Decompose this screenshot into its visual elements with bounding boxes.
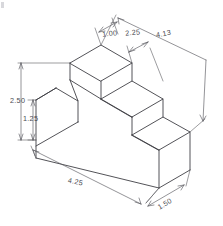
dim-4-25-label: 4.25 — [67, 176, 84, 188]
dimension-1-50: 1.50 — [146, 170, 190, 212]
dim-4-25-arrow-end — [135, 198, 141, 204]
dim-2-25-label: 2.25 — [125, 27, 141, 38]
dim-1-50-label: 1.50 — [156, 196, 174, 211]
front-top-edge-a — [70, 80, 101, 99]
bottom-right-edge — [159, 170, 190, 188]
front-top-edge-b — [101, 99, 132, 117]
dim-2-50-label: 2.50 — [10, 96, 25, 105]
drawing-svg: 1.00 2.25 4.13 2.50 — [0, 0, 223, 226]
bottom-front-edge — [36, 158, 159, 188]
dim-4-13-arrow-start — [118, 18, 124, 24]
dim-1-25-label: 1.25 — [23, 114, 38, 123]
dimension-4-25: 4.25 — [31, 146, 159, 204]
isometric-drawing-canvas: 1.00 2.25 4.13 2.50 — [0, 0, 223, 226]
stepped-block-object — [36, 45, 190, 188]
corner-artifact — [1, 2, 4, 8]
front-left-face — [36, 80, 70, 158]
dim-4-13-label: 4.13 — [155, 28, 172, 40]
dim-4-13-line-lower — [203, 60, 206, 121]
dim-2-25-line — [129, 42, 148, 52]
dim-1-00-label: 1.00 — [102, 28, 118, 39]
dimension-1-00: 1.00 — [95, 18, 118, 45]
dim-4-13-line-upper — [118, 18, 206, 60]
front-lower-face — [70, 102, 132, 174]
